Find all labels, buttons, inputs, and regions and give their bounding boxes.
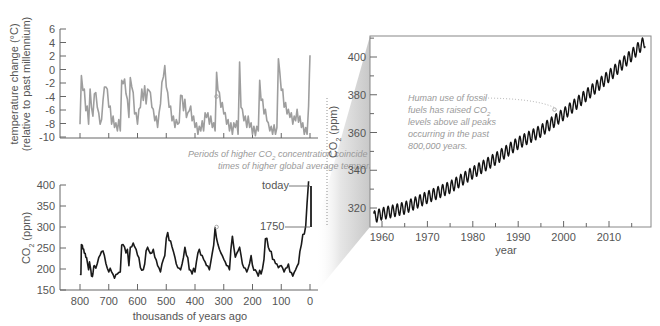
temp-y-tick-label: -6	[45, 104, 55, 116]
mauna-loa-chart: 400380360340320 196019701980199020002010…	[327, 36, 651, 256]
ml-y-tick-label: 380	[348, 89, 366, 101]
ml-x-tick-label: 1970	[415, 231, 439, 243]
ml-y-tick-label: 400	[348, 51, 366, 63]
temp-y-tick-label: 0	[49, 64, 55, 76]
co2-y-tick-label: 350	[37, 200, 55, 212]
co2-x-title: thousands of years ago	[133, 310, 247, 322]
temp-y-tick-label: -4	[45, 91, 55, 103]
ml-x-tick-label: 1990	[506, 231, 530, 243]
ml-y-tick-label: 340	[348, 164, 366, 176]
co2-annotation-marker	[215, 225, 219, 229]
ml-x-tick-label: 1980	[461, 231, 485, 243]
co2-y-tick-label: 300	[37, 221, 55, 233]
temp-y-title-line2: (relative to past millennium)	[20, 17, 32, 152]
right-annotation-line3: levels above all peaks	[408, 117, 497, 127]
co2-ice-core-chart: 400350300250200150 800700600500400300200…	[20, 179, 318, 322]
co2-x-tick-label: 800	[71, 295, 89, 307]
ml-x-tick-label: 2010	[597, 231, 621, 243]
ml-y-tick-label: 360	[348, 127, 366, 139]
ml-x-tick-label: 2000	[551, 231, 575, 243]
1750-label: 1750	[260, 220, 284, 232]
temperature-series-line	[80, 55, 310, 135]
co2-y-tick-label: 400	[37, 179, 55, 191]
co2-x-tick-label: 600	[128, 295, 146, 307]
temp-y-tick-label: -10	[39, 131, 55, 143]
temperature-chart: 6420-2-4-6-8-10 temperature change (°C) …	[8, 17, 318, 152]
figure: 6420-2-4-6-8-10 temperature change (°C) …	[0, 0, 660, 326]
co2-x-tick-label: 400	[186, 295, 204, 307]
co2-y-tick-label: 250	[37, 242, 55, 254]
temp-y-tick-label: -2	[45, 77, 55, 89]
co2-x-tick-label: 200	[243, 295, 261, 307]
temp-y-tick-label: 6	[49, 23, 55, 35]
ml-x-tick-label: 1960	[370, 231, 394, 243]
today-label: today	[262, 179, 289, 191]
temp-y-title-line1: temperature change (°C)	[8, 23, 20, 144]
ml-x-title: year	[495, 244, 517, 256]
co2-x-tick-label: 700	[100, 295, 118, 307]
right-annotation-line5: 800,000 years.	[408, 141, 468, 151]
co2-y-title: CO2 (ppm)	[20, 212, 35, 264]
right-annotation-line4: occurring in the past	[408, 129, 490, 139]
co2-x-tick-label: 100	[272, 295, 290, 307]
co2-x-tick-label: 500	[157, 295, 175, 307]
co2-y-tick-label: 200	[37, 263, 55, 275]
co2-x-tick-label: 300	[215, 295, 233, 307]
temp-y-tick-label: -8	[45, 118, 55, 130]
co2-y-tick-label: 150	[37, 284, 55, 296]
co2-x-tick-label: 0	[307, 295, 313, 307]
right-annotation-line1: Human use of fossil	[408, 93, 488, 103]
temp-y-tick-label: 2	[49, 50, 55, 62]
temp-y-tick-label: 4	[49, 37, 55, 49]
ml-y-tick-label: 320	[348, 202, 366, 214]
